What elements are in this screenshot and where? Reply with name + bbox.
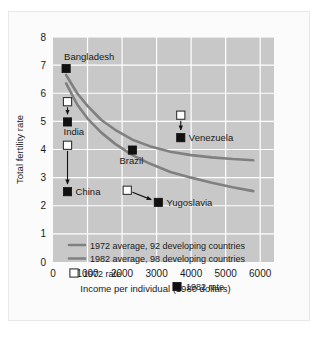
marker-1982-bangladesh [62, 64, 70, 72]
marker-1972-yugoslavia [123, 186, 131, 194]
y-axis-tick-label: 2 [40, 200, 46, 211]
legend-label: 1982 average, 98 developing countries [90, 254, 246, 264]
point-label-brazil: Brazil [120, 155, 144, 166]
point-label-bangladesh: Bangladesh [64, 51, 114, 62]
y-axis-tick-label: 7 [40, 60, 46, 71]
y-axis-tick-label: 6 [40, 88, 46, 99]
x-axis-tick-label: 0 [50, 268, 56, 279]
y-axis-tick-label: 4 [40, 144, 46, 155]
legend-label: 1982 rate [186, 282, 224, 292]
chart-card: 0123456780100020003000400050006000Income… [8, 11, 310, 321]
x-axis-tick-label: 6000 [249, 268, 272, 279]
x-axis-tick-label: 5000 [215, 268, 238, 279]
marker-1982-venezuela [177, 134, 185, 142]
y-axis-tick-label: 5 [40, 116, 46, 127]
point-label-china: China [76, 186, 102, 197]
legend-label: 1972 average, 92 developing countries [90, 241, 246, 251]
x-axis-tick-label: 3000 [145, 268, 168, 279]
legend-label: 1972 rate [83, 269, 121, 279]
y-axis-tick-label: 1 [40, 228, 46, 239]
marker-1972-china [63, 141, 71, 149]
y-axis-title: Total fertility rate [14, 115, 25, 184]
marker-1982-brazil [128, 146, 136, 154]
x-axis-tick-label: 4000 [180, 268, 203, 279]
y-axis-tick-label: 0 [40, 257, 46, 268]
point-label-yugoslavia: Yugoslavia [166, 197, 213, 208]
marker-1982-china [63, 188, 71, 196]
y-axis-tick-label: 3 [40, 172, 46, 183]
marker-1972-venezuela [177, 111, 185, 119]
marker-1972-india [63, 98, 71, 106]
marker-1982-yugoslavia [154, 198, 162, 206]
legend-marker-1982 [173, 282, 181, 290]
fertility-income-chart: 0123456780100020003000400050006000Income… [9, 12, 309, 320]
point-label-india: India [64, 126, 85, 137]
point-label-venezuela: Venezuela [189, 132, 234, 143]
y-axis-tick-label: 8 [40, 32, 46, 43]
marker-1982-india [63, 118, 71, 126]
legend-marker-1972 [70, 269, 78, 277]
figure: 0123456780100020003000400050006000Income… [0, 0, 322, 348]
